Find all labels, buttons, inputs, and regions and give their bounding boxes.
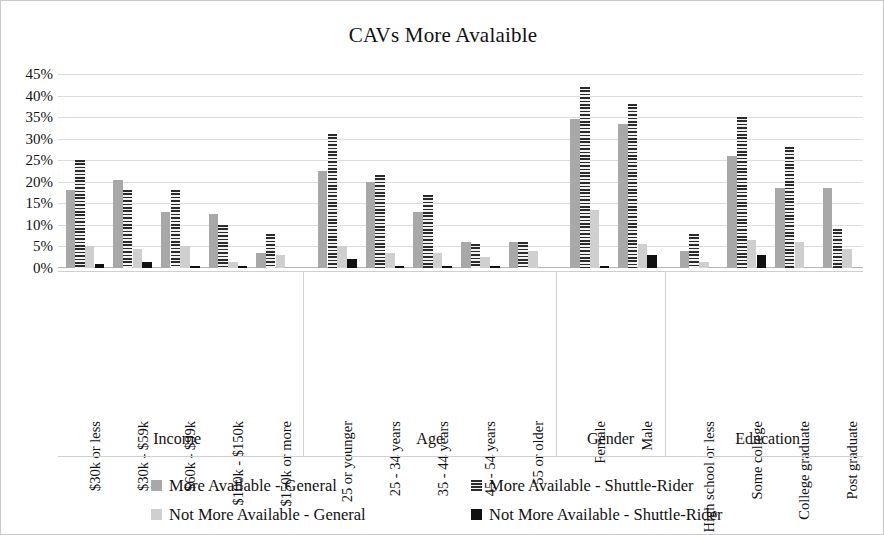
bar <box>570 119 580 268</box>
gridline <box>58 74 863 75</box>
bar <box>757 255 767 268</box>
bar <box>385 253 395 268</box>
bar <box>318 171 328 268</box>
bar <box>833 229 843 268</box>
bar <box>66 190 76 268</box>
bar <box>737 117 747 268</box>
bar <box>680 251 690 268</box>
bar <box>509 242 519 268</box>
y-axis-tick-label: 5% <box>33 239 53 254</box>
bar <box>395 266 405 268</box>
bar <box>337 246 347 268</box>
y-axis-tick-label: 30% <box>26 131 54 146</box>
bar <box>228 262 238 268</box>
chart-container: CAVs More Avalaible 45%40%35%30%25%20%15… <box>0 0 884 535</box>
bar <box>433 253 443 268</box>
chart-legend: More Available - GeneralMore Available -… <box>151 471 791 529</box>
group-label: Age <box>416 430 443 448</box>
legend-swatch-icon <box>471 480 482 491</box>
bar <box>113 180 123 268</box>
y-axis-tick-label: 20% <box>26 174 54 189</box>
bar <box>328 134 338 268</box>
bar <box>747 240 757 268</box>
bar <box>190 266 200 268</box>
bar <box>133 249 143 268</box>
plot-area <box>58 74 863 268</box>
legend-label: More Available - General <box>169 476 337 496</box>
group-separator <box>665 271 666 456</box>
y-axis-tick-label: 10% <box>26 217 54 232</box>
group-label: Gender <box>587 430 634 448</box>
bar <box>638 244 648 268</box>
bar <box>518 242 528 268</box>
bar <box>461 242 471 268</box>
bar <box>366 182 376 268</box>
bar <box>628 104 638 268</box>
legend-label: Not More Available - General <box>169 505 366 525</box>
group-axis-band: IncomeAgeGenderEducation <box>58 271 863 456</box>
bar <box>238 266 248 268</box>
group-separator <box>303 271 304 456</box>
bar <box>85 246 95 268</box>
bar <box>171 190 181 268</box>
bar <box>795 242 805 268</box>
y-axis-tick-label: 35% <box>26 110 54 125</box>
bar <box>727 156 737 268</box>
legend-item[interactable]: More Available - General <box>151 476 471 496</box>
legend-label: More Available - Shuttle-Rider <box>489 476 694 496</box>
bar <box>413 212 423 268</box>
bar <box>528 251 538 268</box>
chart-title: CAVs More Avalaible <box>1 23 884 48</box>
legend-swatch-icon <box>471 509 482 520</box>
bar <box>423 195 433 268</box>
bar <box>442 266 452 268</box>
bar <box>618 124 628 268</box>
bar <box>209 214 219 268</box>
bar <box>75 160 85 268</box>
y-axis-tick-label: 15% <box>26 196 54 211</box>
bar <box>842 249 852 268</box>
bar <box>180 246 190 268</box>
bar <box>161 212 171 268</box>
y-axis: 45%40%35%30%25%20%15%10%5%0% <box>1 74 53 268</box>
legend-item[interactable]: Not More Available - Shuttle-Rider <box>471 505 791 525</box>
bar <box>580 87 590 268</box>
bar <box>266 234 276 268</box>
bar <box>375 175 385 268</box>
bar <box>347 259 357 268</box>
bar <box>256 253 266 268</box>
legend-swatch-icon <box>151 509 162 520</box>
group-separator <box>556 271 557 456</box>
bar <box>142 262 152 268</box>
bar <box>480 257 490 268</box>
bar <box>590 210 600 268</box>
bar <box>490 266 500 268</box>
legend-swatch-icon <box>151 480 162 491</box>
y-axis-tick-label: 25% <box>26 153 54 168</box>
bar <box>699 262 709 268</box>
legend-item[interactable]: More Available - Shuttle-Rider <box>471 476 791 496</box>
y-axis-tick-label: 45% <box>26 67 54 82</box>
y-axis-tick-label: 40% <box>26 88 54 103</box>
legend-label: Not More Available - Shuttle-Rider <box>489 505 722 525</box>
bar <box>600 266 610 268</box>
bar <box>775 188 785 268</box>
bar <box>647 255 657 268</box>
bar <box>823 188 833 268</box>
gridline <box>58 96 863 97</box>
bar <box>785 147 795 268</box>
bar <box>95 264 105 268</box>
bar <box>471 244 481 268</box>
legend-item[interactable]: Not More Available - General <box>151 505 471 525</box>
bar <box>689 234 699 268</box>
group-label: Education <box>735 430 800 448</box>
bar <box>123 190 133 268</box>
group-label: Income <box>153 430 201 448</box>
bar <box>218 225 228 268</box>
axis-rule-bottom <box>58 456 863 457</box>
y-axis-tick-label: 0% <box>33 261 53 276</box>
bar <box>276 255 286 268</box>
